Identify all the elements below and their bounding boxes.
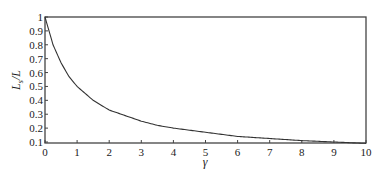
x-tick-label: 10	[361, 146, 373, 158]
x-tick-label: 9	[331, 146, 337, 158]
y-tick-label: 1	[38, 11, 44, 23]
plot-border	[45, 17, 366, 143]
x-tick-label: 0	[42, 146, 48, 158]
y-axis-label-den: /L	[9, 70, 23, 81]
y-tick-label: 0.1	[29, 136, 43, 148]
x-tick-label: 2	[106, 146, 112, 158]
x-tick-label: 6	[235, 146, 241, 158]
y-tick-label: 0.4	[29, 94, 43, 106]
series-line	[45, 17, 366, 143]
y-tick-label: 0.8	[29, 39, 43, 51]
x-tick-label: 4	[171, 146, 177, 158]
x-tick-label: 1	[74, 146, 80, 158]
y-axis-label: Ls/L	[9, 70, 25, 91]
y-tick-label: 0.3	[29, 108, 43, 120]
x-tick-label: 7	[267, 146, 273, 158]
svg-text:Ls/L: Ls/L	[9, 70, 25, 91]
x-axis-label: γ	[203, 155, 208, 169]
y-tick-label: 0.9	[29, 25, 43, 37]
x-tick-label: 3	[139, 146, 145, 158]
data-series	[45, 17, 366, 143]
y-tick-label: 0.2	[29, 122, 43, 134]
y-tick-label: 0.7	[29, 53, 43, 65]
y-tick-label: 0.6	[29, 67, 43, 79]
y-tick-label: 0.5	[29, 80, 43, 92]
x-tick-label: 8	[299, 146, 305, 158]
line-chart: 0.10.20.30.40.50.60.70.80.91 01234567891…	[0, 0, 384, 179]
plot-frame	[45, 17, 366, 143]
